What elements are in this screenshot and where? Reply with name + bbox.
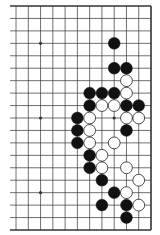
white-stone [133, 199, 145, 211]
black-stone [108, 187, 120, 199]
black-stone [84, 162, 96, 174]
star-point [113, 116, 116, 119]
black-stone [96, 199, 108, 211]
black-stone [71, 112, 83, 124]
white-stone [96, 100, 108, 112]
black-stone [121, 199, 133, 211]
white-stone [121, 162, 133, 174]
white-stone [121, 112, 133, 124]
black-stone [108, 62, 120, 74]
black-stone [84, 100, 96, 112]
white-stone [108, 137, 120, 149]
white-stone [96, 149, 108, 161]
black-stone [96, 174, 108, 186]
white-stone [84, 112, 96, 124]
black-stone [71, 125, 83, 137]
black-stone [108, 37, 120, 49]
star-point [39, 191, 42, 194]
black-stone [121, 125, 133, 137]
black-stone [84, 149, 96, 161]
star-point [39, 42, 42, 45]
black-stone [121, 212, 133, 224]
white-stone [133, 112, 145, 124]
star-point [39, 116, 42, 119]
black-stone [133, 100, 145, 112]
black-stone [71, 137, 83, 149]
black-stone [121, 100, 133, 112]
white-stone [84, 137, 96, 149]
white-stone [133, 174, 145, 186]
white-stone [96, 162, 108, 174]
go-board [0, 0, 160, 235]
white-stone [121, 87, 133, 99]
white-stone [121, 75, 133, 87]
black-stone [108, 87, 120, 99]
black-stone [84, 87, 96, 99]
white-stone [121, 187, 133, 199]
white-stone [108, 100, 120, 112]
black-stone [121, 62, 133, 74]
white-stone [84, 125, 96, 137]
black-stone [96, 87, 108, 99]
